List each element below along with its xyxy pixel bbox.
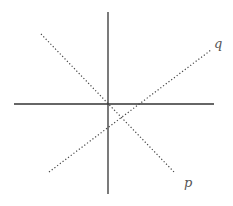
axes-diagram bbox=[0, 0, 233, 206]
line-q bbox=[49, 50, 211, 172]
label-q: q bbox=[214, 37, 222, 50]
diagram-canvas: q p bbox=[0, 0, 233, 206]
label-p: p bbox=[184, 176, 192, 189]
